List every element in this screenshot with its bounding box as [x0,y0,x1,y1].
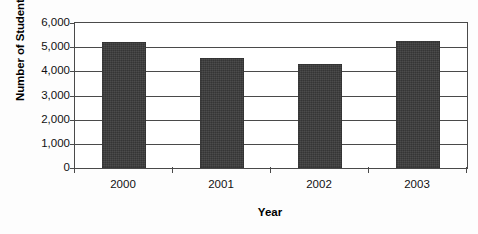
x-axis-title: Year [74,206,466,218]
y-axis-tick-label: 2,000 [18,113,70,125]
x-axis-tick-mark [270,167,271,173]
y-axis-tick-label: 6,000 [18,16,70,28]
y-axis-tick-mark [70,23,75,24]
y-axis-tick-label: 4,000 [18,64,70,76]
x-axis-tick-marks [74,167,468,173]
y-axis-tick-mark [70,120,75,121]
x-axis-tick-mark [368,167,369,173]
bar-2000 [102,42,146,168]
y-axis-tick-mark [70,96,75,97]
y-axis-tick-label: 1,000 [18,137,70,149]
bar-2003 [396,41,440,168]
y-axis-tick-mark [70,47,75,48]
bar-chart-figure: Number of Students 01,0002,0003,0004,000… [0,0,478,234]
y-axis-tick-label: 3,000 [18,89,70,101]
y-axis-tick-labels: 01,0002,0003,0004,0005,0006,000 [18,16,70,169]
y-axis-tick-mark [70,144,75,145]
y-axis-tick-mark [70,71,75,72]
y-axis-tick-label: 5,000 [18,40,70,52]
x-axis-tick-mark [172,167,173,173]
x-axis-tick-label: 2003 [377,178,457,190]
y-axis-tick-label: 0 [18,161,70,173]
x-axis-tick-mark [74,167,75,173]
bar-2002 [298,64,342,168]
x-axis-tick-mark [466,167,467,173]
x-axis-tick-labels: 2000200120022003 [74,178,466,194]
bar-2001 [200,58,244,168]
plot-area [74,22,468,169]
x-axis-tick-label: 2002 [279,178,359,190]
x-axis-tick-label: 2001 [181,178,261,190]
x-axis-tick-label: 2000 [83,178,163,190]
